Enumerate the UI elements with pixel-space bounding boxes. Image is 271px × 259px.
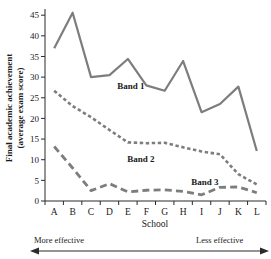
series-line-3 xyxy=(54,147,257,195)
x-category-label: E xyxy=(125,207,131,217)
arrow-left-head xyxy=(30,248,39,255)
y-tick-label: 25 xyxy=(30,93,40,103)
band-3-label: Band 3 xyxy=(191,177,219,187)
y-tick-label: 20 xyxy=(30,114,40,124)
y-axis-title: Final academic achievement (average exam… xyxy=(4,54,25,162)
x-category-label: F xyxy=(144,207,149,217)
x-axis-ticks xyxy=(45,201,266,205)
y-tick-label: 40 xyxy=(30,31,40,41)
x-category-label: L xyxy=(254,207,260,217)
y-tick-label: 5 xyxy=(35,176,40,186)
y-tick-label: 35 xyxy=(30,52,40,62)
x-category-label: G xyxy=(161,207,168,217)
x-category-label: H xyxy=(180,207,187,217)
chart-svg: Final academic achievement (average exam… xyxy=(0,0,271,259)
x-category-label: B xyxy=(69,207,75,217)
y-tick-label: 15 xyxy=(30,134,40,144)
x-axis-category-labels: ABCDEFGHIJKL xyxy=(51,207,260,217)
x-category-label: I xyxy=(200,207,203,217)
less-effective-label: Less effective xyxy=(196,235,244,245)
band-1-label: Band 1 xyxy=(117,81,145,91)
x-category-label: K xyxy=(235,207,242,217)
y-tick-label: 30 xyxy=(30,72,40,82)
series-group xyxy=(54,13,257,195)
band-2-label: Band 2 xyxy=(127,154,155,164)
y-axis-title-line2: (average exam score) xyxy=(15,68,25,149)
y-tick-label: 0 xyxy=(35,196,40,206)
y-tick-label: 45 xyxy=(30,10,40,20)
series-line-1 xyxy=(54,13,257,151)
x-category-label: J xyxy=(218,207,222,217)
y-axis-ticks: 051015202530354045 xyxy=(30,10,45,206)
more-effective-label: More effective xyxy=(34,235,84,245)
x-category-label: A xyxy=(51,207,58,217)
x-category-label: C xyxy=(88,207,94,217)
y-tick-label: 10 xyxy=(30,155,40,165)
x-axis-title: School xyxy=(142,219,169,229)
arrow-right-head xyxy=(260,248,269,255)
chart-container: Final academic achievement (average exam… xyxy=(0,0,271,259)
effectiveness-arrow xyxy=(30,248,269,255)
x-category-label: D xyxy=(106,207,113,217)
series-line-2 xyxy=(54,91,257,185)
y-axis-title-line1: Final academic achievement xyxy=(4,54,14,162)
